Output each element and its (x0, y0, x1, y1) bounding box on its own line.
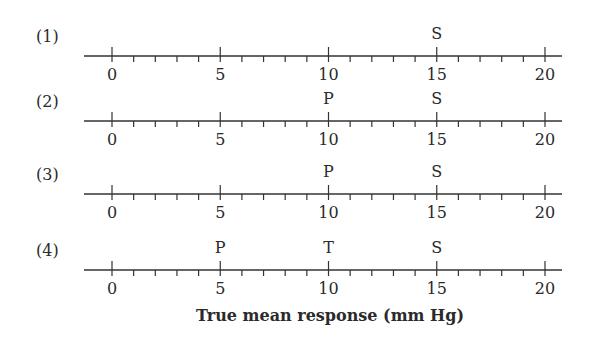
number-line-1 (84, 47, 562, 62)
tick-label: 20 (535, 203, 555, 222)
tick-label: 10 (318, 279, 338, 298)
row-label: (2) (36, 92, 59, 111)
marker-s: S (431, 24, 442, 43)
number-line-axes (0, 0, 594, 343)
row-label: (4) (36, 241, 59, 260)
tick-label: 20 (535, 279, 555, 298)
tick-label: 0 (107, 65, 117, 84)
tick-label: 10 (318, 65, 338, 84)
row-label: (1) (36, 27, 59, 46)
tick-label: 0 (107, 130, 117, 149)
number-line-2 (84, 112, 562, 127)
number-line-3 (84, 185, 562, 200)
tick-label: 15 (427, 65, 447, 84)
marker-p: P (215, 238, 226, 257)
tick-label: 10 (318, 203, 338, 222)
marker-s: S (431, 162, 442, 181)
tick-label: 5 (215, 65, 225, 84)
tick-label: 0 (107, 279, 117, 298)
marker-s: S (431, 238, 442, 257)
marker-t: T (323, 238, 334, 257)
tick-label: 15 (427, 130, 447, 149)
tick-label: 15 (427, 203, 447, 222)
tick-label: 5 (215, 130, 225, 149)
tick-label: 20 (535, 65, 555, 84)
tick-label: 5 (215, 203, 225, 222)
marker-p: P (323, 89, 334, 108)
number-line-figure: (1)05101520S(2)05101520PS(3)05101520PS(4… (0, 0, 594, 343)
row-label: (3) (36, 165, 59, 184)
marker-p: P (323, 162, 334, 181)
tick-label: 10 (318, 130, 338, 149)
tick-label: 15 (427, 279, 447, 298)
tick-label: 5 (215, 279, 225, 298)
tick-label: 20 (535, 130, 555, 149)
number-line-4 (84, 261, 562, 276)
marker-s: S (431, 89, 442, 108)
tick-label: 0 (107, 203, 117, 222)
axis-title: True mean response (mm Hg) (0, 306, 594, 325)
